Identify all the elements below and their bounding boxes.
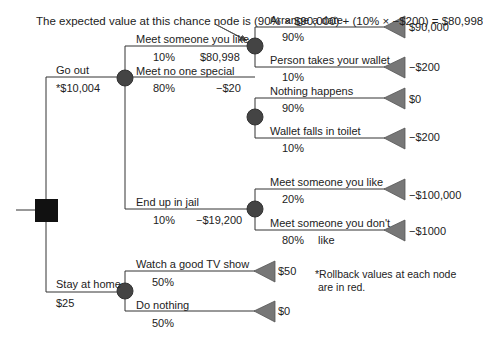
branch-prob: 10% <box>153 51 175 63</box>
branch-prob: 10% <box>153 214 175 226</box>
chance-node-icon <box>247 201 263 217</box>
footnote-line: are in red. <box>315 281 456 294</box>
outcome-prob: 10% <box>282 142 304 154</box>
outcome-prob: 90% <box>282 102 304 114</box>
outcome-prob: 90% <box>282 31 304 43</box>
outcome-label: Person takes your wallet <box>270 54 390 66</box>
rollback-value: *$10,004 <box>56 82 100 94</box>
branch-label: Meet no one special <box>136 65 234 77</box>
outcome-label: Meet someone you like <box>270 176 383 188</box>
chance-node-icon <box>117 70 133 86</box>
terminal-node-icon <box>254 261 275 282</box>
terminal-node-icon <box>384 179 405 200</box>
rollback-value: $80,998 <box>200 51 240 63</box>
branch-label: Meet someone you like <box>136 33 249 45</box>
branch-label: End up in jail <box>136 196 199 208</box>
branch-label: Go out <box>56 64 89 76</box>
chance-node-icon <box>247 38 263 54</box>
outcome-prob: 80% <box>282 234 304 246</box>
outcome-label: Nothing happens <box>270 85 353 97</box>
payoff: $90,000 <box>409 21 449 33</box>
branch-prob: 80% <box>153 82 175 94</box>
outcome-label: Meet someone you don't <box>270 217 390 229</box>
payoff: $0 <box>278 305 290 317</box>
decision-node-icon <box>35 199 58 222</box>
outcome-prob: 50% <box>152 317 174 329</box>
terminal-node-icon <box>384 128 405 149</box>
terminal-node-icon <box>384 88 405 109</box>
rollback-value: −$20 <box>216 82 241 94</box>
footnote: *Rollback values at each node are in red… <box>315 268 456 294</box>
payoff: $0 <box>409 93 421 105</box>
outcome-prob: 20% <box>282 193 304 205</box>
chance-node-icon <box>247 109 263 125</box>
outcome-label: Wallet falls in toilet <box>270 125 361 137</box>
branch-label: Stay at home <box>56 278 121 290</box>
outcome-label: Watch a good TV show <box>136 258 249 270</box>
rollback-value: −$19,200 <box>196 214 242 226</box>
payoff: $50 <box>278 265 296 277</box>
payoff: −$200 <box>409 131 440 143</box>
outcome-prob: 50% <box>152 276 174 288</box>
rollback-value: $25 <box>56 297 74 309</box>
payoff: −$1000 <box>409 225 446 237</box>
payoff: −$100,000 <box>409 189 461 201</box>
outcome-prob: 10% <box>282 71 304 83</box>
outcome-label-cont: like <box>318 234 335 246</box>
terminal-node-icon <box>254 301 275 322</box>
outcome-label: Do nothing <box>136 299 189 311</box>
footnote-line: *Rollback values at each node <box>315 268 456 281</box>
outcome-label: Arrange a date <box>270 14 343 26</box>
payoff: −$200 <box>409 61 440 73</box>
